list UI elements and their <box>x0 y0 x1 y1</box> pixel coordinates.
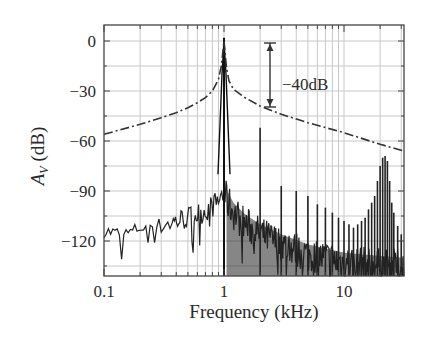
x-tick-label: 0.1 <box>93 282 114 301</box>
y-axis-title-unit: (dB) <box>27 127 49 167</box>
arrow-head-up-icon <box>267 44 274 51</box>
y-axis-title: AV (dB) <box>27 127 51 188</box>
y-tick-label: −120 <box>61 232 96 251</box>
x-axis-title: Frequency (kHz) <box>189 301 318 323</box>
arrow-head-down-icon <box>267 99 274 106</box>
y-tick-labels: 0−30−60−90−120 <box>61 32 96 251</box>
y-tick-label: −30 <box>69 82 96 101</box>
annotation-label: −40dB <box>282 75 328 94</box>
x-tick-labels: 0.1110 <box>93 282 352 301</box>
y-axis-title-main: A <box>27 173 48 187</box>
y-tick-label: 0 <box>88 32 97 51</box>
y-tick-label: −90 <box>69 182 96 201</box>
x-tick-label: 1 <box>220 282 229 301</box>
x-tick-label: 10 <box>336 282 353 301</box>
y-tick-label: −60 <box>69 132 96 151</box>
noise-floor-trace <box>104 181 404 276</box>
filter-response-curve <box>104 41 404 151</box>
spectrum-chart: 0−30−60−90−120 0.1110 −40dB Frequency (k… <box>0 0 429 341</box>
